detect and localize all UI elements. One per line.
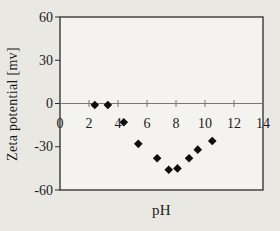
x-tick-label: 6 — [144, 116, 151, 131]
x-tick-label: 0 — [57, 116, 64, 131]
y-tick-label: 30 — [39, 53, 53, 68]
y-tick-label: 0 — [46, 96, 53, 111]
x-tick-label: 10 — [198, 116, 212, 131]
x-tick-label: 2 — [86, 116, 93, 131]
zeta-ph-chart-svg: 0246810121460300-30-60 — [0, 0, 280, 231]
x-tick-label: 12 — [227, 116, 241, 131]
x-tick-label: 8 — [173, 116, 180, 131]
zeta-potential-figure: 0246810121460300-30-60 Zeta potential [m… — [0, 0, 280, 231]
y-tick-label: -30 — [34, 139, 53, 154]
y-tick-label: -60 — [34, 183, 53, 198]
x-axis-title: pH — [60, 202, 263, 219]
y-axis-title: Zeta potential [mv] — [4, 18, 22, 191]
y-tick-label: 60 — [39, 10, 53, 25]
x-tick-label: 14 — [256, 116, 270, 131]
